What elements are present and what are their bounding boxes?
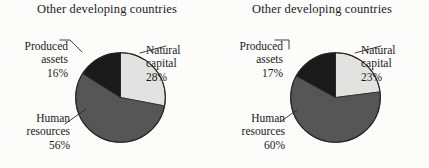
callout-natural-capital-left: Natural capital 28% [146,44,212,84]
callout-label-line1: Natural [146,44,212,57]
callout-human-resources-right: Human resources 60% [215,112,285,152]
callout-label-line1: Human [0,112,70,125]
callout-produced-assets-right: Produced assets 17% [217,40,283,80]
callout-label-line2: resources [215,125,285,138]
callout-value: 23% [361,71,427,84]
callout-label-line2: capital [361,57,427,70]
callout-value: 56% [0,139,70,152]
callout-value: 60% [215,139,285,152]
callout-label-line1: Produced [2,40,68,53]
callout-produced-assets-left: Produced assets 16% [2,40,68,80]
two-pie-chart-figure: Other developing countries Produced asse… [0,0,429,168]
callout-label-line2: resources [0,125,70,138]
callout-label-line1: Human [215,112,285,125]
callout-label-line1: Natural [361,44,427,57]
chart-panel-left: Other developing countries Produced asse… [0,0,214,168]
callout-label-line2: assets [2,53,68,66]
callout-label-line2: assets [217,53,283,66]
callout-value: 16% [2,67,68,80]
callout-label-line2: capital [146,57,212,70]
callout-value: 17% [217,67,283,80]
callout-label-line1: Produced [217,40,283,53]
chart-title-left: Other developing countries [0,2,214,17]
chart-title-right: Other developing countries [215,2,429,17]
callout-human-resources-left: Human resources 56% [0,112,70,152]
callout-natural-capital-right: Natural capital 23% [361,44,427,84]
callout-value: 28% [146,71,212,84]
chart-panel-right: Other developing countries Produced asse… [215,0,429,168]
